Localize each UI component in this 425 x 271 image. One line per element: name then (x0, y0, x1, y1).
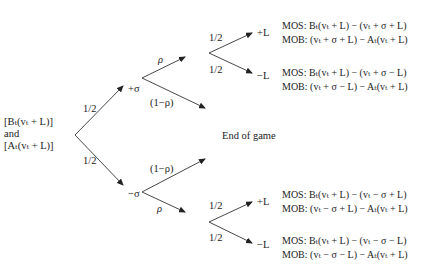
outcome-down-minusL: −L (257, 239, 269, 251)
prob-up-plus: 1/2 (209, 32, 222, 44)
edge-down-rho (142, 192, 185, 212)
payoff-down-plusL: MOS: Bₜ(vₜ + L) − (vₜ − σ + L) MOB: (vₜ … (282, 188, 408, 216)
prob-down-plus: 1/2 (209, 200, 222, 212)
outcome-down-plusL: +L (257, 196, 269, 208)
root-line-2: and (4, 128, 54, 140)
root-line-1: [Bₜ(vₜ + L)] (4, 116, 54, 128)
node-minus-sigma: −σ (128, 188, 140, 200)
root-line-3: [Aₜ(vₜ + L)] (4, 140, 54, 152)
payoff-mos: MOS: Bₜ(vₜ + L) − (vₜ − σ − L) (282, 234, 408, 248)
edge-up-rho (142, 57, 185, 78)
node-plus-sigma: +σ (128, 83, 140, 95)
payoff-mob: MOB: (vₜ + σ − L) − Aₜ(vₜ + L) (282, 80, 408, 94)
payoff-mos: MOS: Bₜ(vₜ + L) − (vₜ − σ + L) (282, 188, 408, 202)
outcome-up-minusL: −L (257, 70, 269, 82)
root-label: [Bₜ(vₜ + L)] and [Aₜ(vₜ + L)] (4, 116, 54, 152)
outcome-up-plusL: +L (257, 27, 269, 39)
prob-up-rho: ρ (158, 54, 163, 66)
payoff-mos: MOS: Bₜ(vₜ + L) − (vₜ + σ − L) (282, 66, 408, 80)
payoff-mos: MOS: Bₜ(vₜ + L) − (vₜ + σ + L) (282, 19, 408, 33)
prob-down-end: (1−ρ) (150, 163, 173, 175)
payoff-down-minusL: MOS: Bₜ(vₜ + L) − (vₜ − σ − L) MOB: (vₜ … (282, 234, 408, 262)
payoff-mob: MOB: (vₜ + σ + L) − Aₜ(vₜ + L) (282, 33, 408, 47)
prob-up-minus: 1/2 (209, 64, 222, 76)
payoff-mob: MOB: (vₜ − σ + L) − Aₜ(vₜ + L) (282, 202, 408, 216)
prob-root-up: 1/2 (83, 103, 96, 115)
prob-down-minus: 1/2 (209, 232, 222, 244)
payoff-mob: MOB: (vₜ − σ − L) − Aₜ(vₜ + L) (282, 248, 408, 262)
prob-down-rho: ρ (157, 203, 162, 215)
prob-root-down: 1/2 (83, 155, 96, 167)
prob-up-end: (1−ρ) (150, 97, 173, 109)
payoff-up-minusL: MOS: Bₜ(vₜ + L) − (vₜ + σ − L) MOB: (vₜ … (282, 66, 408, 94)
end-of-game-label: End of game (222, 130, 276, 142)
payoff-up-plusL: MOS: Bₜ(vₜ + L) − (vₜ + σ + L) MOB: (vₜ … (282, 19, 408, 47)
